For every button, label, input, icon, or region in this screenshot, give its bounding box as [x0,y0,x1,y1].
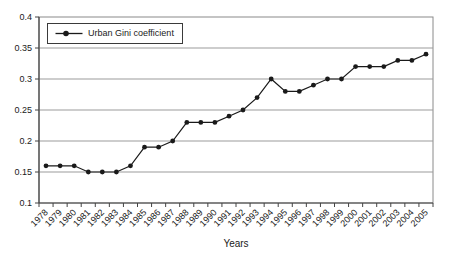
data-point [213,120,218,125]
line-marker-icon [55,29,83,38]
data-point [283,89,288,94]
data-point [325,77,330,82]
y-tick-label: 0.15 [14,167,32,177]
data-point [100,170,105,175]
data-point [72,163,77,168]
y-tick-label: 0.2 [19,136,32,146]
data-point [410,58,415,63]
data-point [44,163,49,168]
data-point [58,163,63,168]
data-point [128,163,133,168]
y-tick-label: 0.3 [19,74,32,84]
y-tick-label: 0.1 [19,198,32,208]
data-point [184,120,189,125]
data-point [114,170,119,175]
data-point [255,95,260,100]
urban-gini-line-chart: 0.10.150.20.250.30.350.41978197919801981… [0,0,449,263]
legend: Urban Gini coefficient [47,23,183,44]
data-point [269,77,274,82]
data-point [424,52,429,57]
legend-label: Urban Gini coefficient [88,29,174,38]
data-point [297,89,302,94]
data-point [156,145,161,150]
data-point [198,120,203,125]
x-axis-title: Years [190,238,282,249]
data-point [381,64,386,69]
data-point [311,83,316,88]
y-tick-label: 0.35 [14,43,32,53]
y-tick-label: 0.4 [19,12,32,22]
data-point [367,64,372,69]
data-point [241,108,246,113]
data-point [353,64,358,69]
data-point [395,58,400,63]
y-tick-label: 0.25 [14,105,32,115]
data-point [170,139,175,144]
data-point [86,170,91,175]
data-point [227,114,232,119]
data-point [339,77,344,82]
data-point [142,145,147,150]
